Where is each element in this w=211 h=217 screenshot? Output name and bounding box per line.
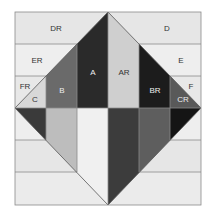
label-F: F — [189, 82, 194, 91]
label-B: B — [59, 86, 64, 95]
label-E: E — [178, 56, 183, 65]
label-ER: ER — [31, 56, 42, 65]
label-DR: DR — [50, 24, 62, 33]
label-C: C — [32, 95, 38, 104]
label-D: D — [164, 24, 170, 33]
label-A: A — [90, 68, 96, 77]
label-FR: FR — [20, 82, 31, 91]
label-CR: CR — [177, 95, 189, 104]
label-AR: AR — [118, 68, 129, 77]
label-BR: BR — [149, 86, 160, 95]
diamond-diagram: DR D ER E FR F C B A AR BR CR — [0, 0, 211, 217]
